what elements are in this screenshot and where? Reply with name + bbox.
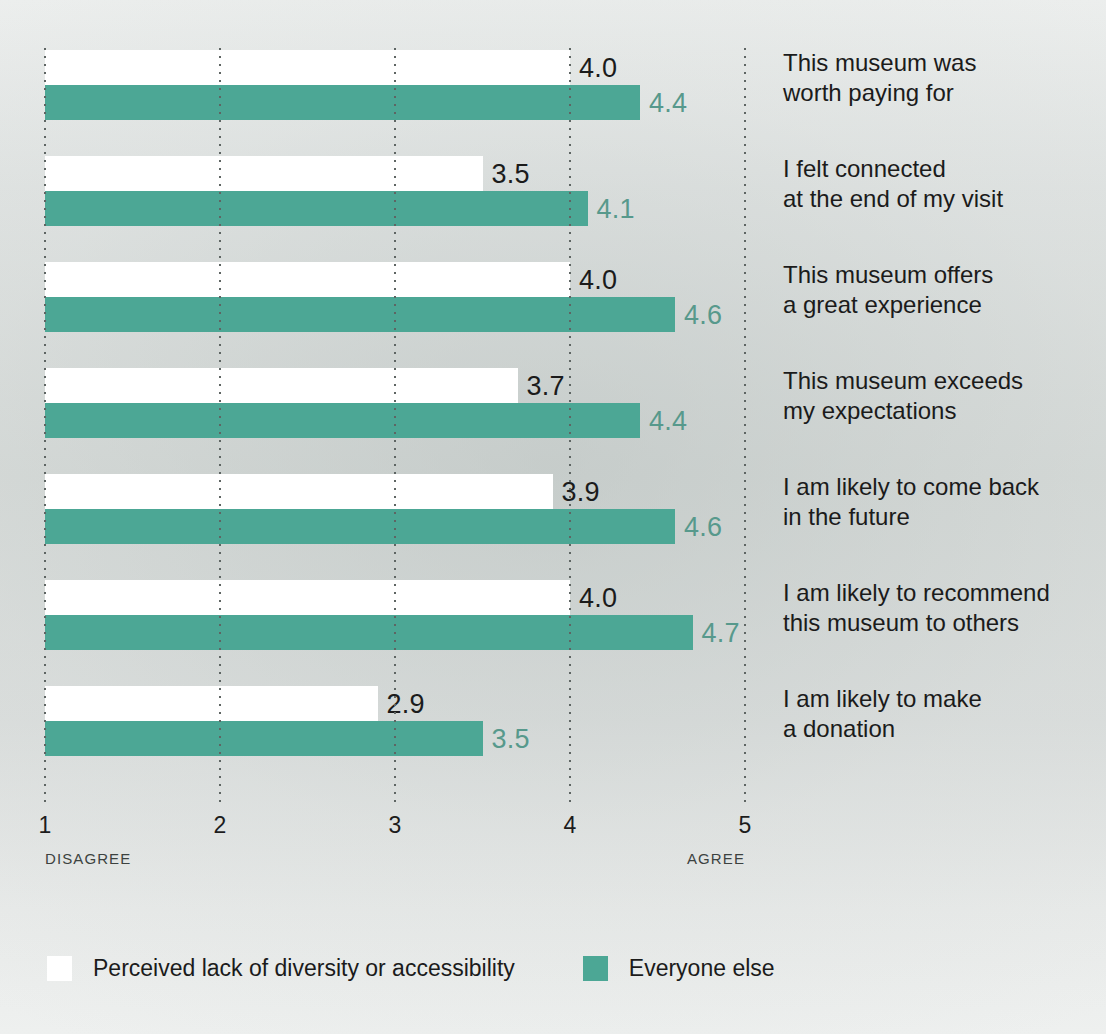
bar: 4.7 (45, 615, 693, 650)
bar: 2.9 (45, 686, 378, 721)
category-label: I am likely to recommendthis museum to o… (783, 578, 1093, 638)
gridline-4 (569, 48, 571, 808)
bar-value-label: 3.9 (562, 478, 600, 505)
bar-value-label: 4.4 (649, 407, 687, 434)
category-label: This museum exceedsmy expectations (783, 366, 1093, 426)
bar: 4.0 (45, 50, 570, 85)
bar-value-label: 4.4 (649, 89, 687, 116)
category-label: I am likely to makea donation (783, 684, 1093, 744)
bar: 4.6 (45, 297, 675, 332)
bar-value-label: 4.0 (579, 54, 617, 81)
bar: 3.5 (45, 721, 483, 756)
bar: 4.1 (45, 191, 588, 226)
chart-container: 4.04.43.54.14.04.63.74.43.94.64.04.72.93… (0, 0, 1106, 1034)
gridline-3 (394, 48, 396, 808)
x-tick-5: 5 (739, 812, 752, 839)
bar-value-label: 4.0 (579, 266, 617, 293)
bar-value-label: 3.7 (527, 372, 565, 399)
bar-value-label: 4.7 (702, 619, 740, 646)
bar-value-label: 2.9 (387, 690, 425, 717)
bar: 4.6 (45, 509, 675, 544)
category-label: I felt connectedat the end of my visit (783, 154, 1093, 214)
bar: 4.4 (45, 403, 640, 438)
legend-label: Perceived lack of diversity or accessibi… (93, 955, 515, 982)
bar: 4.0 (45, 580, 570, 615)
bar-value-label: 4.6 (684, 301, 722, 328)
bar-value-label: 3.5 (492, 725, 530, 752)
x-axis: 12345 DISAGREE AGREE (45, 812, 745, 882)
legend-item[interactable]: Perceived lack of diversity or accessibi… (47, 955, 515, 982)
bar-value-label: 4.0 (579, 584, 617, 611)
x-tick-4: 4 (564, 812, 577, 839)
gridline-2 (219, 48, 221, 808)
bar: 3.9 (45, 474, 553, 509)
axis-anchor-agree: AGREE (687, 850, 745, 867)
legend-swatch-white (47, 956, 72, 981)
chart-legend: Perceived lack of diversity or accessibi… (47, 955, 775, 982)
bar-value-label: 4.6 (684, 513, 722, 540)
bar-value-label: 4.1 (597, 195, 635, 222)
category-label: I am likely to come backin the future (783, 472, 1093, 532)
axis-anchor-disagree: DISAGREE (45, 850, 131, 867)
x-tick-2: 2 (214, 812, 227, 839)
x-tick-1: 1 (39, 812, 52, 839)
gridline-1 (44, 48, 46, 808)
plot-area: 4.04.43.54.14.04.63.74.43.94.64.04.72.93… (45, 48, 745, 808)
legend-item[interactable]: Everyone else (583, 955, 775, 982)
gridline-5 (744, 48, 746, 808)
category-label: This museum wasworth paying for (783, 48, 1093, 108)
legend-swatch-teal (583, 956, 608, 981)
x-tick-3: 3 (389, 812, 402, 839)
bar: 3.5 (45, 156, 483, 191)
bar: 4.4 (45, 85, 640, 120)
category-label: This museum offersa great experience (783, 260, 1093, 320)
legend-label: Everyone else (629, 955, 775, 982)
bar: 3.7 (45, 368, 518, 403)
bar: 4.0 (45, 262, 570, 297)
category-labels: This museum wasworth paying forI felt co… (783, 48, 1093, 808)
bar-value-label: 3.5 (492, 160, 530, 187)
